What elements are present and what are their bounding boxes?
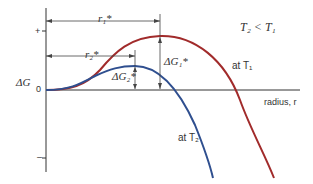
curve-t1-label: at T₁ bbox=[232, 60, 252, 71]
curve-t2 bbox=[46, 66, 213, 178]
r2-star-label: r₂* bbox=[85, 48, 99, 60]
r1-star-label: r₁* bbox=[98, 12, 112, 24]
dg2-star-label: ΔG₂* bbox=[112, 70, 136, 82]
y-zero-tick: 0 bbox=[36, 84, 41, 94]
y-axis-label: ΔG bbox=[16, 76, 30, 88]
x-axis-label: radius, r bbox=[264, 97, 297, 107]
y-minus-tick: – bbox=[37, 152, 42, 162]
condition-label: T₂ < T₁ bbox=[240, 20, 276, 35]
curve-t2-label: at T₂ bbox=[178, 132, 199, 143]
y-plus-tick: + bbox=[35, 26, 40, 36]
dg1-star-label: ΔG₁* bbox=[164, 55, 188, 67]
